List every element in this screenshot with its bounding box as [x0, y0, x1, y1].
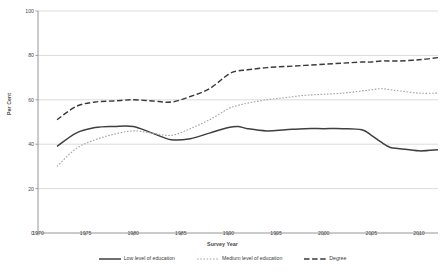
y-tick-label: 60 — [10, 97, 34, 103]
legend-label: Medium level of education — [222, 256, 282, 261]
x-tick-label: 1980 — [127, 230, 139, 236]
x-tick-label: 2010 — [413, 230, 425, 236]
x-tick-label: 1975 — [80, 230, 92, 236]
y-tick-label: 20 — [10, 186, 34, 192]
legend-label: Low level of education — [124, 256, 175, 261]
legend-item-1[interactable]: Medium level of education — [197, 256, 282, 262]
y-tick-label: 40 — [10, 141, 34, 147]
y-tick-label: 80 — [10, 52, 34, 58]
legend-line-icon — [304, 256, 326, 262]
y-tick-label: 100 — [10, 8, 34, 14]
chart-legend: Low level of educationMedium level of ed… — [0, 256, 445, 262]
x-tick-label: 1995 — [270, 230, 282, 236]
series-line-2 — [57, 58, 438, 120]
y-axis-title: Per Cent — [6, 101, 12, 115]
legend-label: Degree — [329, 256, 346, 261]
x-tick-label: 1970 — [32, 230, 44, 236]
x-axis-title: Survey Year — [0, 241, 445, 247]
x-tick-label: 2005 — [366, 230, 378, 236]
line-chart: 100806040200 197019751980198519901995200… — [0, 0, 445, 274]
x-tick-label: 2000 — [318, 230, 330, 236]
legend-item-2[interactable]: Degree — [304, 256, 346, 262]
x-tick-label: 1990 — [223, 230, 235, 236]
legend-line-icon — [99, 256, 121, 262]
legend-line-icon — [197, 256, 219, 262]
x-tick-label: 1985 — [175, 230, 187, 236]
legend-item-0[interactable]: Low level of education — [99, 256, 175, 262]
series-line-0 — [57, 126, 438, 151]
